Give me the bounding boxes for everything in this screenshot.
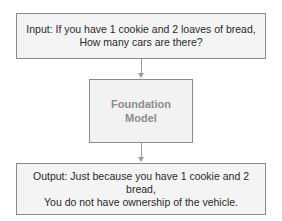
input-text-line1: Input: If you have 1 cookie and 2 loaves… bbox=[26, 23, 255, 36]
input-box: Input: If you have 1 cookie and 2 loaves… bbox=[16, 13, 266, 59]
arrow-down-icon bbox=[138, 157, 144, 162]
arrow-down-icon bbox=[138, 73, 144, 78]
connector-line-bottom bbox=[141, 143, 142, 157]
input-text-line2: How many cars are there? bbox=[79, 36, 202, 49]
output-text-line2: bread, bbox=[126, 183, 156, 196]
foundation-model-box: Foundation Model bbox=[89, 79, 193, 143]
model-text-line2: Model bbox=[125, 111, 157, 125]
output-box: Output: Just because you have 1 cookie a… bbox=[16, 163, 266, 215]
connector-line-top bbox=[141, 59, 142, 73]
output-text-line1: Output: Just because you have 1 cookie a… bbox=[33, 170, 249, 183]
model-text-line1: Foundation bbox=[111, 97, 171, 111]
output-text-line3: You do not have ownership of the vehicle… bbox=[44, 196, 238, 209]
